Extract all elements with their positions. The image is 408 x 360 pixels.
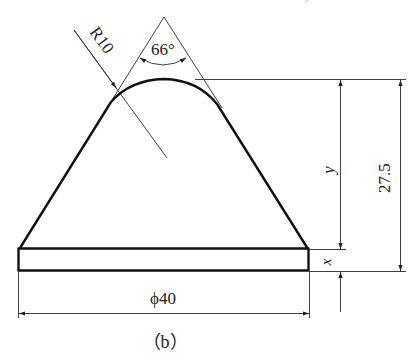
cropped-header-fragment xyxy=(305,0,308,2)
diameter-label: ϕ40 xyxy=(150,289,176,308)
y-dimension-label: y xyxy=(319,166,338,176)
base-flange xyxy=(19,249,309,271)
x-dimension-label: x xyxy=(318,258,334,266)
extension-lines xyxy=(19,80,407,319)
angle-label: 66° xyxy=(151,40,175,59)
part-profile-outline xyxy=(20,79,308,249)
technical-drawing: 66° R10 y x 27.5 ϕ40 （b） xyxy=(0,0,408,360)
angle-construction-lines xyxy=(112,17,222,108)
angle-dimension-arc xyxy=(140,58,186,65)
figure-caption: （b） xyxy=(143,332,188,352)
total-height-label: 27.5 xyxy=(375,163,394,193)
